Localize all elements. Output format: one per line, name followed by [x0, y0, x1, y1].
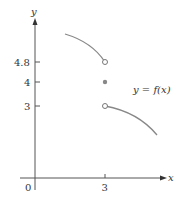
open-circle-lower: [103, 104, 108, 109]
left-branch-curve: [65, 34, 105, 62]
x-tick-label-3: 3: [102, 182, 108, 193]
right-branch-curve: [105, 106, 157, 135]
function-label: y = f(x): [132, 84, 171, 95]
x-axis-label: x: [168, 172, 174, 183]
y-axis-arrow-icon: [33, 18, 38, 25]
x-axis-arrow-icon: [160, 176, 167, 181]
origin-label: 0: [25, 182, 31, 193]
filled-point: [103, 80, 107, 84]
graph: y x 0 3 4.8 4 3 y = f(x): [0, 0, 188, 201]
open-circle-upper: [103, 60, 108, 65]
y-tick-label-3: 3: [24, 101, 30, 112]
y-tick-label-4-8: 4.8: [14, 57, 30, 68]
y-tick-label-4: 4: [24, 77, 30, 88]
y-axis-label: y: [30, 6, 37, 17]
